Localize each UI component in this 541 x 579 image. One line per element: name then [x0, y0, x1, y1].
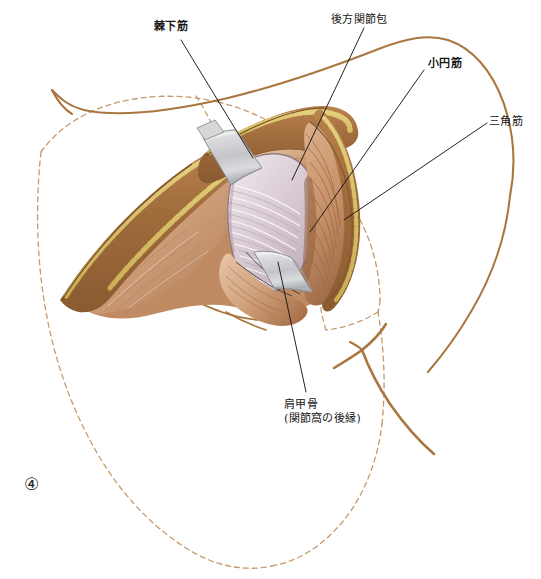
label-posterior-capsule: 後方関節包: [331, 13, 388, 27]
humerus-outline: [334, 324, 434, 454]
skin-flap-outline-lower: [428, 196, 510, 372]
label-deltoid: 三角筋: [489, 115, 523, 129]
label-scapula-line1: 肩甲骨: [284, 398, 361, 412]
label-teres-minor: 小円筋: [428, 57, 462, 71]
label-scapula-line2: (関節窩の後縁): [284, 412, 361, 426]
anatomical-figure: 棘下筋 後方関節包 小円筋 三角筋 肩甲骨 (関節窩の後縁) ④: [0, 0, 541, 579]
figure-number: ④: [24, 474, 39, 494]
label-infraspinatus: 棘下筋: [154, 20, 188, 34]
label-scapula: 肩甲骨 (関節窩の後縁): [284, 398, 361, 426]
illustration-canvas: [0, 0, 541, 579]
